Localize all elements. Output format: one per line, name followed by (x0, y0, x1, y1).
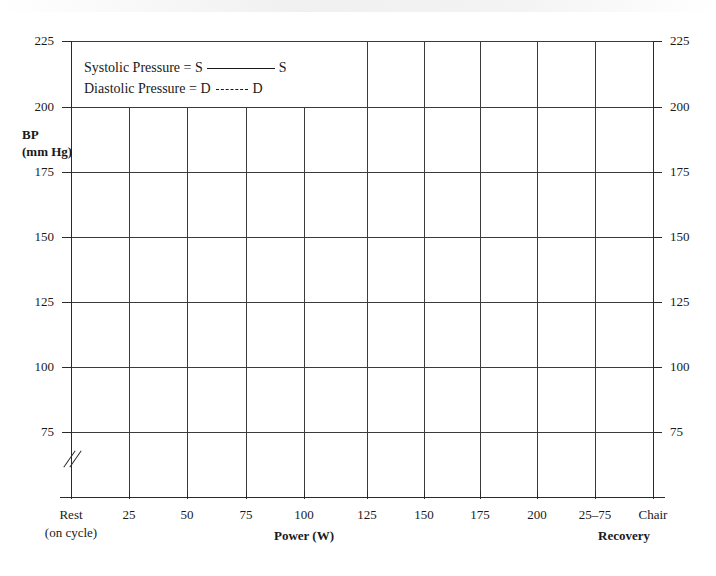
gridline-vertical-150 (424, 41, 425, 497)
x-tick-125 (367, 491, 368, 499)
y-tick-label-left-75: 75 (8, 425, 54, 438)
x-tick-25-75 (595, 491, 596, 499)
y-tick-right-100 (653, 367, 662, 368)
gridline-vertical-125 (367, 41, 368, 497)
gridline-horizontal-125 (71, 302, 653, 303)
y-tick-label-right-200: 200 (670, 100, 712, 113)
gridline-vertical-50 (187, 107, 188, 497)
y-tick-left-200 (62, 107, 71, 108)
y-tick-right-225 (653, 41, 662, 42)
x-axis-title-power: Power (W) (244, 528, 364, 543)
y-tick-left-100 (62, 367, 71, 368)
y-tick-label-left-225: 225 (8, 34, 54, 47)
x-tick-sublabel-rest: (on cycle) (26, 526, 116, 540)
y-tick-label-right-100: 100 (670, 360, 712, 373)
legend-label-diastolic: Diastolic Pressure = D (84, 79, 211, 98)
x-tick-175 (480, 491, 481, 499)
legend-endpoint-systolic: S (279, 58, 287, 77)
legend-line-sample-dashed (212, 83, 252, 95)
gridline-horizontal-175 (71, 172, 653, 173)
y-tick-right-75 (653, 432, 662, 433)
x-tick-150 (424, 491, 425, 499)
gridline-vertical-25-75 (595, 41, 596, 497)
scan-artifact-haze (0, 0, 716, 12)
y-axis-break-icon (60, 445, 86, 475)
x-tick-chair (653, 491, 654, 499)
y-tick-left-225 (62, 41, 71, 42)
y-tick-label-right-150: 150 (670, 230, 712, 243)
y-tick-right-150 (653, 237, 662, 238)
y-tick-label-left-100: 100 (8, 360, 54, 373)
y-tick-label-right-125: 125 (670, 295, 712, 308)
y-tick-left-75 (62, 432, 71, 433)
x-tick-100 (304, 491, 305, 499)
y-tick-label-left-125: 125 (8, 295, 54, 308)
x-tick-75 (246, 491, 247, 499)
x-tick-25 (129, 491, 130, 499)
y-axis-left (71, 41, 72, 497)
y-tick-label-right-175: 175 (670, 165, 712, 178)
gridline-horizontal-225 (71, 41, 653, 42)
gridline-vertical-100 (304, 107, 305, 497)
x-tick-200 (537, 491, 538, 499)
y-tick-label-left-200: 200 (8, 100, 54, 113)
legend-label-systolic: Systolic Pressure = S (84, 58, 203, 77)
y-tick-left-175 (62, 172, 71, 173)
y-tick-right-200 (653, 107, 662, 108)
y-tick-right-125 (653, 302, 662, 303)
y-tick-left-150 (62, 237, 71, 238)
gridline-vertical-25 (129, 107, 130, 497)
y-tick-label-left-150: 150 (8, 230, 54, 243)
y-axis-title-line2: (mm Hg) (22, 144, 72, 160)
x-tick-50 (187, 491, 188, 499)
x-tick-label-chair: Chair (613, 508, 693, 522)
y-tick-label-right-75: 75 (670, 425, 712, 438)
y-tick-left-125 (62, 302, 71, 303)
gridline-horizontal-75 (71, 432, 653, 433)
y-axis-title-line1: BP (22, 127, 39, 143)
y-tick-label-left-175: 175 (8, 165, 54, 178)
y-tick-right-175 (653, 172, 662, 173)
chart-legend: Systolic Pressure = SS Diastolic Pressur… (84, 57, 287, 97)
x-axis-title-recovery: Recovery (564, 528, 684, 543)
legend-entry-systolic: Systolic Pressure = SS (84, 57, 287, 76)
gridline-horizontal-200 (71, 107, 653, 108)
gridline-vertical-175 (480, 41, 481, 497)
legend-entry-diastolic: Diastolic Pressure = DD (84, 78, 287, 97)
legend-line-sample-solid (204, 62, 278, 74)
legend-endpoint-diastolic: D (253, 79, 263, 98)
y-axis-right (653, 41, 654, 497)
x-tick-rest (71, 491, 72, 499)
x-axis (60, 497, 665, 498)
gridline-horizontal-100 (71, 367, 653, 368)
y-tick-label-right-225: 225 (670, 34, 712, 47)
gridline-vertical-200 (537, 41, 538, 497)
gridline-horizontal-150 (71, 237, 653, 238)
gridline-vertical-75 (246, 107, 247, 497)
blood-pressure-exercise-chart: 225 200 175 150 125 100 75 225 200 175 1… (0, 0, 716, 576)
